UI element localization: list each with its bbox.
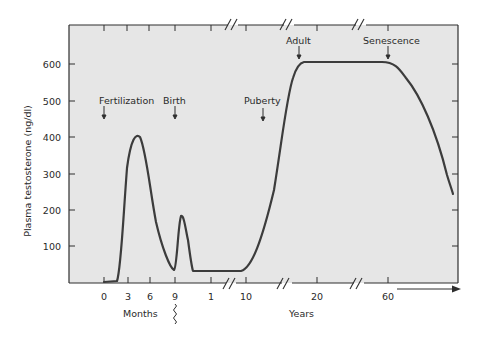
birth-wavy-line [174, 304, 177, 324]
x-tick-label: 10 [234, 292, 258, 302]
x-tick-label: 6 [138, 292, 162, 302]
event-label-fertilization: Fertilization [99, 96, 154, 106]
y-ticks [69, 64, 458, 246]
event-label-birth: Birth [163, 96, 186, 106]
event-label-puberty: Puberty [244, 96, 281, 106]
event-arrows [102, 46, 390, 121]
months-label: Months [123, 309, 158, 319]
plot-frame [69, 25, 458, 283]
event-label-senescence: Senescence [363, 36, 420, 46]
x-tick-label: 20 [305, 292, 329, 302]
time-arrow-icon [397, 286, 461, 293]
x-tick-label: 0 [92, 292, 116, 302]
x-tick-label: 9 [163, 292, 187, 302]
axis-break-marks [223, 19, 364, 289]
x-tick-label: 1 [199, 292, 223, 302]
y-tick-label: 600 [31, 60, 61, 70]
x-tick-label: 60 [376, 292, 400, 302]
x-tick-label: 3 [116, 292, 140, 302]
event-label-adult: Adult [286, 36, 311, 46]
y-tick-label: 500 [31, 97, 61, 107]
y-tick-label: 400 [31, 133, 61, 143]
y-axis-label: Plasma testosterone (ng/dl) [22, 105, 33, 237]
years-label: Years [289, 309, 314, 319]
y-tick-label: 100 [31, 242, 61, 252]
y-tick-label: 300 [31, 170, 61, 180]
x-ticks [104, 25, 388, 283]
y-tick-label: 200 [31, 206, 61, 216]
